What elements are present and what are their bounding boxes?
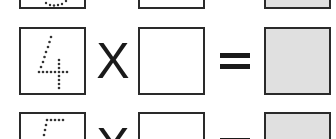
equation-row-1: X — [0, 0, 336, 8]
equals-sign — [220, 27, 250, 94]
equals-sign — [220, 112, 250, 139]
multiply-sign: X — [95, 118, 131, 139]
dotted-digit-5-icon — [21, 114, 84, 139]
traceable-digit-box — [19, 0, 86, 9]
result-box[interactable] — [264, 0, 331, 9]
traceable-digit-box — [19, 27, 86, 95]
result-box[interactable] — [264, 112, 331, 139]
answer-input-box[interactable] — [138, 0, 205, 9]
multiply-sign: X — [95, 33, 131, 89]
multiply-sign: X — [95, 0, 131, 3]
equation-row-2: X — [0, 27, 336, 94]
answer-input-box[interactable] — [138, 27, 205, 95]
dotted-digit-3-icon — [21, 0, 84, 7]
result-box[interactable] — [264, 27, 331, 95]
answer-input-box[interactable] — [138, 112, 205, 139]
traceable-digit-box — [19, 112, 86, 139]
dotted-digit-4-icon — [21, 29, 84, 93]
equals-sign — [220, 0, 250, 8]
equation-row-3: X — [0, 112, 336, 139]
